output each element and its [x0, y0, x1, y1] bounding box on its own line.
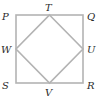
- label-t: T: [45, 2, 53, 13]
- label-s: S: [2, 80, 9, 91]
- inner-square-tuvw: [16, 15, 83, 83]
- outer-square-pqrs: [16, 15, 83, 83]
- label-u: U: [87, 44, 96, 55]
- label-q: Q: [87, 11, 95, 22]
- diagram-canvas: P Q R S T U V W: [0, 0, 99, 98]
- label-r: R: [86, 80, 95, 91]
- label-v: V: [45, 87, 54, 98]
- label-w: W: [1, 44, 12, 55]
- label-p: P: [1, 11, 9, 22]
